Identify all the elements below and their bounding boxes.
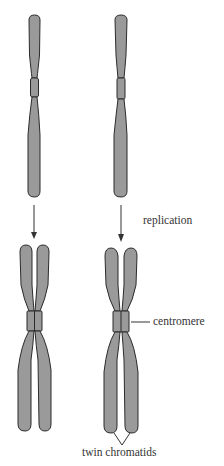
chromatid-bottom-left-a-upper [20,245,34,311]
centromere-label: centromere [153,316,205,328]
chromosome-top-right-upper-arm [115,15,127,78]
chromatid-bottom-right-a-upper [105,248,120,311]
chromosome-top-left-centromere [31,78,39,97]
chromosome-bottom-left [18,245,51,431]
chromatid-bottom-left-b-lower [35,331,51,431]
chromosome-top-right-lower-arm [114,99,127,197]
chromatid-bottom-left-a-lower [18,331,34,431]
twin-chromatids-label: twin chromatids [82,447,156,459]
chromatid-bottom-left-b-upper [35,245,49,311]
chromosome-top-left-lower-arm [28,97,40,197]
chromosome-top-right [114,15,127,197]
chromatid-bottom-right-b-upper [122,248,137,311]
chromosome-bottom-right [104,248,138,433]
chromatid-bottom-right-a-lower [104,332,120,433]
chromosome-replication-diagram [0,0,224,466]
twin-chromatids-bracket [114,433,130,445]
arrow-right-replication [118,205,124,242]
chromosome-top-left [28,15,40,197]
arrow-left-replication [31,205,37,239]
chromatid-bottom-right-b-lower [122,332,138,433]
chromosome-top-right-centromere [117,78,125,99]
replication-label: replication [143,215,192,227]
chromosome-top-left-upper-arm [29,15,40,78]
